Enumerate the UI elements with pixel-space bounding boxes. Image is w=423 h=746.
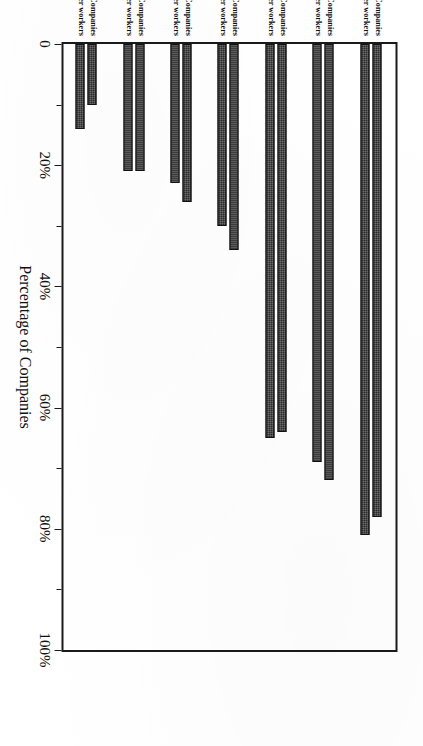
bars-layer <box>63 44 395 650</box>
bar-group <box>158 44 205 650</box>
series-label: All Companies <box>278 0 287 36</box>
series-label: Companies with > 30% older workers <box>313 0 322 36</box>
bar-group <box>253 44 300 650</box>
bar-group <box>300 44 347 650</box>
bar <box>75 44 84 129</box>
bar <box>170 44 179 183</box>
series-label: All Companies <box>231 0 240 36</box>
bar <box>230 44 239 250</box>
axis-tick-label: 60% <box>35 394 52 422</box>
series-label: Companies with > 30% older workers <box>266 0 275 36</box>
axis-tick-label: 0 <box>35 40 52 48</box>
bar <box>218 44 227 226</box>
axis-tick-label: 20% <box>35 151 52 179</box>
axis-minor-tick <box>56 105 61 106</box>
axis-tick-label: 80% <box>35 515 52 543</box>
series-label: Companies with > 30% older workers <box>171 0 180 36</box>
axis-minor-tick <box>56 347 61 348</box>
bar <box>87 44 96 105</box>
bar-group <box>63 44 110 650</box>
axis-minor-tick <box>56 226 61 227</box>
bar-chart-figure: All CompaniesCompanies with > 30% older … <box>0 0 423 746</box>
axis-minor-tick <box>56 468 61 469</box>
axis-tick <box>54 44 61 45</box>
bar <box>265 44 274 438</box>
series-label: Companies with > 30% older workers <box>124 0 133 36</box>
series-label: All Companies <box>88 0 97 36</box>
series-label: Companies with > 30% older workers <box>219 0 228 36</box>
series-label: All Companies <box>373 0 382 36</box>
category-labels-layer: All CompaniesCompanies with > 30% older … <box>63 0 395 40</box>
axis-tick <box>54 408 61 409</box>
x-axis-title: Percentage of Companies <box>15 42 33 652</box>
bar <box>123 44 132 171</box>
axis-tick-label: 100% <box>35 633 52 668</box>
axis-tick <box>54 165 61 166</box>
bar-group <box>110 44 157 650</box>
axis-tick <box>54 286 61 287</box>
bar <box>182 44 191 202</box>
axis-tick <box>54 650 61 651</box>
bar <box>360 44 369 535</box>
series-label: Companies with > 30% older workers <box>76 0 85 36</box>
bar <box>135 44 144 171</box>
series-label: Companies with > 30% older workers <box>361 0 370 36</box>
axis-minor-tick <box>56 589 61 590</box>
bar <box>324 44 333 480</box>
series-label: All Companies <box>183 0 192 36</box>
rotated-figure-container: All CompaniesCompanies with > 30% older … <box>0 0 423 746</box>
bar <box>277 44 286 432</box>
bar <box>372 44 381 517</box>
bar-group <box>348 44 395 650</box>
series-label: All Companies <box>325 0 334 36</box>
bar-group <box>205 44 252 650</box>
bar <box>312 44 321 462</box>
series-label: All Companies <box>136 0 145 36</box>
axis-tick-label: 40% <box>35 273 52 301</box>
axis-tick <box>54 529 61 530</box>
